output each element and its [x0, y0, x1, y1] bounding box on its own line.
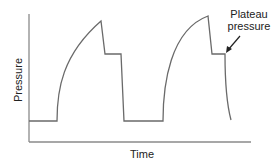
annotation-arrow	[226, 36, 240, 53]
x-axis-label: Time	[130, 148, 154, 160]
annotation-line-2: pressure	[226, 20, 272, 32]
annotation-line-1: Plateau	[226, 8, 272, 20]
y-axis-label: Pressure	[12, 58, 24, 102]
plateau-pressure-annotation: Plateau pressure	[226, 8, 272, 32]
pressure-trace	[29, 16, 231, 121]
